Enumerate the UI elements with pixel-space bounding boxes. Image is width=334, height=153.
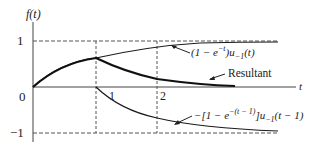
y-tick-0: 0 <box>19 90 26 103</box>
y-tick-1: 1 <box>17 34 24 47</box>
x-axis-label: t <box>299 81 302 92</box>
arrow-resultant-head <box>209 76 215 80</box>
positive-step-label: (1 − e−t)u−1(t) <box>191 47 255 58</box>
arrow-positive-head <box>171 45 177 49</box>
diagram-canvas <box>0 0 334 153</box>
arrow-negative-head <box>174 120 180 125</box>
y-tick-minus-1: −1 <box>10 126 24 139</box>
resultant-curve <box>33 58 235 87</box>
x-tick-2: 2 <box>160 90 166 102</box>
y-axis-label: f(t) <box>26 8 41 20</box>
negative-delayed-label: −[1 − e−(t − 1)]u−1(t − 1) <box>194 110 303 121</box>
resultant-label: Resultant <box>228 68 271 80</box>
x-tick-1: 1 <box>109 90 115 102</box>
